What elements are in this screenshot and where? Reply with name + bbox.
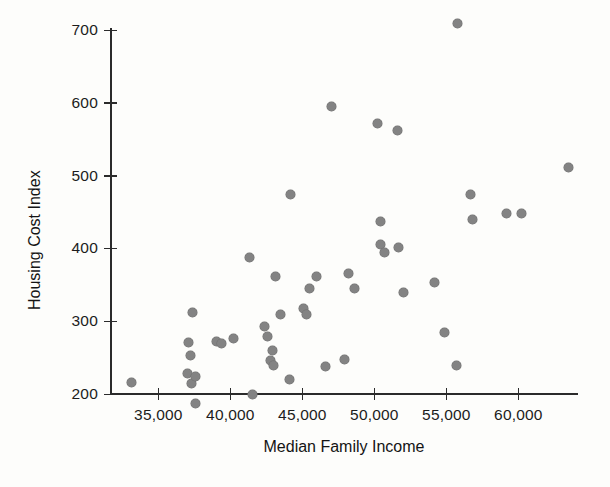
y-tick-600 [104, 102, 117, 104]
data-point [269, 361, 278, 370]
data-point [468, 215, 477, 224]
y-tick-label-300: 300 [52, 312, 98, 330]
x-tick-50000 [374, 388, 376, 400]
data-point [376, 217, 385, 226]
data-point [183, 369, 192, 378]
y-tick-label-700: 700 [52, 21, 98, 39]
y-tick-label-500: 500 [52, 167, 98, 185]
x-tick-label-55000: 55,000 [406, 406, 486, 424]
data-point [327, 102, 336, 111]
y-tick-700 [104, 30, 117, 32]
data-point [466, 190, 475, 199]
data-point [393, 126, 402, 135]
y-tick-300 [104, 321, 117, 323]
data-point [440, 328, 449, 337]
data-point [502, 209, 511, 218]
data-point [305, 284, 314, 293]
y-tick-label-600: 600 [52, 94, 98, 112]
y-axis-title: Housing Cost Index [26, 170, 44, 310]
data-point [245, 253, 254, 262]
data-point [350, 284, 359, 293]
data-point [212, 337, 221, 346]
data-point [380, 248, 389, 257]
data-point [127, 378, 136, 387]
data-point [340, 355, 349, 364]
data-point [430, 278, 439, 287]
data-point [263, 332, 272, 341]
x-tick-label-35000: 35,000 [118, 406, 198, 424]
data-point [266, 356, 275, 365]
y-axis-line [110, 28, 112, 394]
data-point [517, 209, 526, 218]
data-point [452, 361, 461, 370]
data-point [184, 338, 193, 347]
data-point [285, 375, 294, 384]
data-point [217, 339, 226, 348]
data-point [260, 322, 269, 331]
y-tick-label-400: 400 [52, 239, 98, 257]
data-point [186, 351, 195, 360]
x-tick-40000 [230, 388, 232, 400]
data-point [191, 372, 200, 381]
data-point [302, 310, 311, 319]
data-point [344, 269, 353, 278]
data-point [286, 190, 295, 199]
data-point [312, 272, 321, 281]
x-tick-label-50000: 50,000 [334, 406, 414, 424]
data-point [187, 379, 196, 388]
data-point [321, 362, 330, 371]
data-point [373, 119, 382, 128]
y-tick-200 [104, 394, 117, 396]
y-tick-500 [104, 175, 117, 177]
x-tick-35000 [158, 388, 160, 400]
x-tick-label-40000: 40,000 [190, 406, 270, 424]
x-tick-45000 [302, 388, 304, 400]
data-point [188, 308, 197, 317]
data-point [276, 310, 285, 319]
x-tick-60000 [518, 388, 520, 400]
y-tick-label-200: 200 [52, 385, 98, 403]
data-point [564, 163, 573, 172]
data-point [271, 272, 280, 281]
data-point [299, 304, 308, 313]
data-point [229, 334, 238, 343]
x-axis-line [110, 393, 578, 395]
data-point [394, 243, 403, 252]
x-tick-55000 [446, 388, 448, 400]
x-axis-title: Median Family Income [194, 438, 494, 456]
data-point [399, 288, 408, 297]
scatter-plot-figure: 700 600 500 400 300 200 35,000 40,000 45… [0, 0, 610, 487]
x-tick-label-60000: 60,000 [478, 406, 558, 424]
data-point [268, 346, 277, 355]
data-point [453, 19, 462, 28]
x-tick-label-45000: 45,000 [262, 406, 342, 424]
data-point [376, 240, 385, 249]
y-tick-400 [104, 248, 117, 250]
